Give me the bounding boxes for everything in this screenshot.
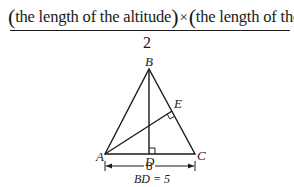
label-a: A	[95, 149, 104, 164]
triangle-diagram: B E A D C 8 BD = 5	[0, 0, 294, 187]
arrow-right-icon	[188, 164, 194, 169]
triangle-abc	[105, 69, 195, 154]
given-bd: BD = 5	[134, 172, 170, 186]
label-c: C	[197, 148, 206, 163]
base-length-label: 8	[146, 158, 153, 173]
label-b: B	[145, 54, 153, 69]
arrow-left-icon	[106, 164, 112, 169]
altitude-ae	[105, 111, 172, 154]
label-e: E	[173, 96, 182, 111]
